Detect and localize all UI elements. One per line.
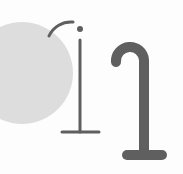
dot-icon [77, 26, 83, 32]
abstract-illustration [0, 0, 183, 174]
